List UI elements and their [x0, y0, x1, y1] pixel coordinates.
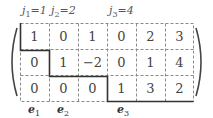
matrix-cell: 0 [107, 23, 136, 49]
basis-var: e [57, 103, 64, 116]
matrix-cell: 1 [78, 23, 107, 49]
matrix-cell: 0 [78, 75, 107, 101]
matrix-cell: 2 [136, 23, 165, 49]
matrix-cell: 4 [165, 49, 194, 75]
matrix-cell: 1 [136, 49, 165, 75]
left-parenthesis [12, 28, 17, 96]
basis-label-e2: e2 [57, 103, 69, 118]
matrix-cell: 3 [136, 75, 165, 101]
basis-sub: 3 [124, 109, 129, 118]
matrix-cell: 0 [49, 23, 78, 49]
matrix-cell: 1 [107, 75, 136, 101]
basis-label-e3: e3 [117, 103, 129, 118]
matrix-cell: 0 [20, 49, 49, 75]
matrix-cell: 3 [165, 23, 194, 49]
basis-sub: 1 [35, 109, 40, 118]
matrix-cell: 1 [20, 23, 49, 49]
matrix-cell: 2 [165, 75, 194, 101]
right-parenthesis [196, 28, 201, 96]
matrix-cell: 0 [49, 75, 78, 101]
basis-var: e [28, 103, 35, 116]
basis-label-e1: e1 [28, 103, 40, 118]
matrix-cell: 0 [20, 75, 49, 101]
basis-var: e [117, 103, 124, 116]
matrix-cell: 0 [107, 49, 136, 75]
matrix-cell: −2 [78, 49, 107, 75]
matrix-cell: 1 [49, 49, 78, 75]
basis-sub: 2 [64, 109, 69, 118]
